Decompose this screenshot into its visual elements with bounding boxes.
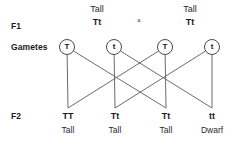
gamete-circle-3: T (157, 39, 173, 55)
gamete-circle-4: t (204, 39, 220, 55)
f2-phenotype-2: Tall (95, 125, 135, 135)
parent-left-genotype: Tt (77, 17, 117, 27)
connector-line (114, 55, 115, 108)
gamete-allele-label: t (113, 43, 116, 51)
connector-line (115, 51, 205, 108)
gamete-allele-label: t (211, 43, 214, 51)
row-label-f1: F1 (11, 21, 21, 31)
f2-phenotype-4: Dwarf (192, 125, 232, 135)
parent-right-genotype: Tt (170, 17, 210, 27)
punnett-lineage-diagram: Tall Tt × Tall Tt F1 Gametes F2 T t T t … (0, 0, 241, 147)
connector-line (121, 51, 212, 108)
f2-genotype-2: Tt (95, 111, 135, 121)
gamete-circle-1: T (59, 39, 75, 55)
f2-genotype-3: Tt (146, 111, 186, 121)
row-label-gametes: Gametes (11, 42, 48, 52)
f2-phenotype-1: Tall (48, 125, 88, 135)
f2-genotype-4: tt (192, 111, 232, 121)
connector-line (67, 55, 68, 108)
connector-line (74, 51, 166, 108)
parent-right-phenotype: Tall (170, 4, 210, 14)
connector-line (165, 55, 166, 108)
row-label-f2: F2 (11, 111, 21, 121)
cross-symbol: × (129, 17, 149, 24)
gamete-allele-label: T (163, 43, 168, 51)
parent-left-phenotype: Tall (77, 4, 117, 14)
gamete-allele-label: T (65, 43, 70, 51)
gamete-circle-2: t (106, 39, 122, 55)
f2-genotype-1: TT (48, 111, 88, 121)
f2-phenotype-3: Tall (146, 125, 186, 135)
connector-line (68, 51, 158, 108)
